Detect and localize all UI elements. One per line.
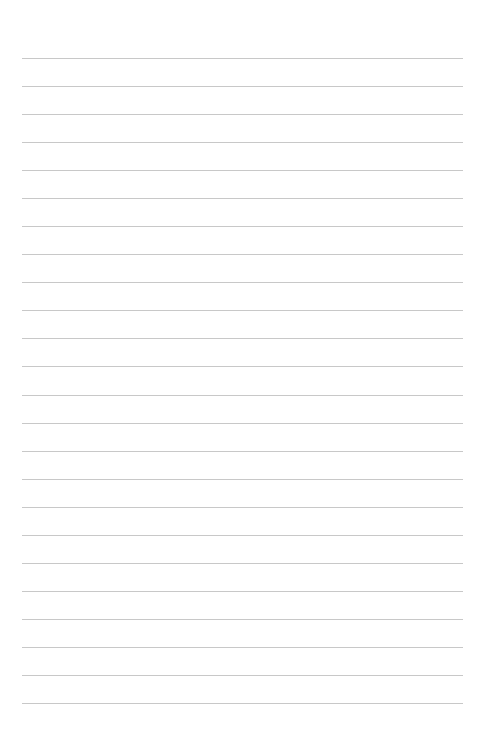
ruled-line <box>22 58 463 59</box>
ruled-line <box>22 338 463 339</box>
ruled-line <box>22 198 463 199</box>
lined-paper-page <box>0 0 482 743</box>
ruled-lines <box>0 0 482 743</box>
ruled-line <box>22 282 463 283</box>
ruled-line <box>22 254 463 255</box>
ruled-line <box>22 675 463 676</box>
ruled-line <box>22 591 463 592</box>
ruled-line <box>22 619 463 620</box>
ruled-line <box>22 226 463 227</box>
ruled-line <box>22 366 463 367</box>
ruled-line <box>22 395 463 396</box>
ruled-line <box>22 170 463 171</box>
ruled-line <box>22 563 463 564</box>
ruled-line <box>22 451 463 452</box>
ruled-line <box>22 142 463 143</box>
ruled-line <box>22 310 463 311</box>
ruled-line <box>22 114 463 115</box>
ruled-line <box>22 535 463 536</box>
ruled-line <box>22 507 463 508</box>
ruled-line <box>22 703 463 704</box>
ruled-line <box>22 86 463 87</box>
ruled-line <box>22 647 463 648</box>
ruled-line <box>22 423 463 424</box>
ruled-line <box>22 479 463 480</box>
